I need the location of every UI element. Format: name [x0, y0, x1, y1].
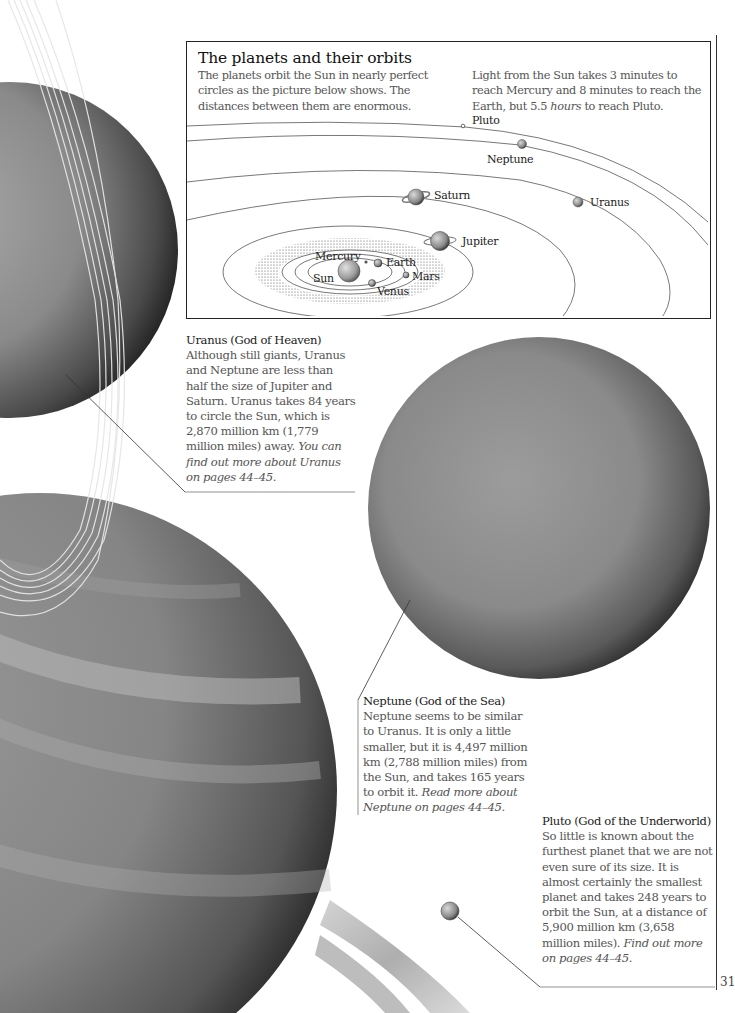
- label-saturn: Saturn: [434, 189, 470, 202]
- neptune-caption: Neptune (God of the Sea)Neptune seems to…: [363, 694, 533, 816]
- uranus-caption-body: Although still giants, Uranus and Neptun…: [186, 348, 355, 453]
- label-sun: Sun: [313, 272, 334, 285]
- uranus-caption-heading: Uranus (God of Heaven): [186, 333, 356, 348]
- label-uranus: Uranus: [590, 196, 629, 209]
- orbits-box-right-text: Light from the Sun takes 3 minutes to re…: [472, 68, 706, 114]
- label-pluto: Pluto: [472, 114, 500, 127]
- label-venus: Venus: [377, 285, 409, 298]
- pluto-caption-body: So little is known about the furthest pl…: [542, 829, 712, 949]
- orbits-box-left-text: The planets orbit the Sun in nearly perf…: [198, 68, 448, 114]
- uranus-caption: Uranus (God of Heaven)Although still gia…: [186, 333, 356, 485]
- label-earth: Earth: [386, 256, 416, 269]
- orbits-box-title: The planets and their orbits: [198, 49, 412, 67]
- label-mercury: Mercury: [315, 250, 361, 263]
- pluto-caption: Pluto (God of the Underworld)So little i…: [542, 814, 714, 966]
- label-mars: Mars: [412, 270, 440, 283]
- label-jupiter: Jupiter: [462, 235, 498, 248]
- page-margin-rule: [716, 35, 717, 990]
- pluto-caption-heading: Pluto (God of the Underworld): [542, 814, 714, 829]
- neptune-caption-heading: Neptune (God of the Sea): [363, 694, 533, 709]
- page-number: 31: [720, 975, 735, 989]
- label-neptune: Neptune: [487, 153, 533, 166]
